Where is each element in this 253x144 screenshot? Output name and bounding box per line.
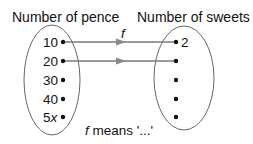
domain-value-text: 5 [43,110,51,125]
domain-value: 30 [43,74,58,88]
domain-value: 40 [43,93,58,107]
codomain-dots [174,40,178,119]
domain-dots [61,40,65,119]
domain-title: Number of pence [12,10,119,24]
caption-text: means '...' [89,123,153,138]
domain-value: 20 [43,55,58,69]
codomain-title: Number of sweets [137,10,250,24]
domain-value: 10 [43,36,58,50]
domain-value: 5x [43,111,57,125]
caption: f means '...' [85,124,153,138]
arrowhead-icon [116,58,126,65]
codomain-value: 2 [181,36,189,50]
variable-x: x [51,110,58,125]
function-label: f [121,27,125,41]
